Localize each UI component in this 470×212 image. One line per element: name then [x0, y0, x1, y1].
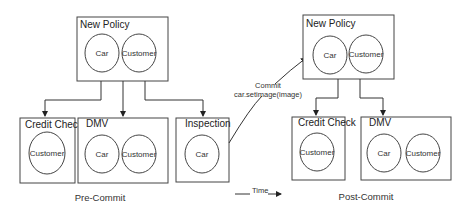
pre-new-policy-title: New Policy	[80, 19, 129, 30]
pre-dmv-box: DMV Car Customer	[78, 118, 168, 183]
post-dmv-title: DMV	[369, 117, 392, 128]
commit-label: Commit	[255, 81, 282, 90]
pre-inspection-car-label: Car	[196, 150, 209, 159]
post-dmv-car-label: Car	[378, 149, 391, 158]
post-credit-check-box: Credit Check Customer	[292, 117, 357, 180]
pre-root-car-label: Car	[96, 49, 109, 58]
post-root-car-label: Car	[324, 51, 337, 60]
post-dmv-customer-label: Customer	[406, 149, 441, 158]
pre-dmv-customer-label: Customer	[122, 150, 157, 159]
pre-commit-connectors	[45, 81, 203, 116]
pre-commit-new-policy-box: New Policy Car Customer	[77, 17, 168, 81]
pre-inspection-title: Inspection	[185, 118, 231, 129]
post-commit-connectors	[316, 79, 383, 115]
post-dmv-box: DMV Car Customer	[361, 117, 451, 180]
time-label: Time	[252, 186, 268, 195]
pre-commit-label: Pre-Commit	[75, 192, 126, 203]
commit-call-label: car.setimage(image)	[234, 90, 302, 99]
pre-credit-customer-label: Customer	[30, 149, 65, 158]
pre-credit-check-title: Credit Check	[25, 119, 84, 130]
diagram-canvas: New Policy Car Customer Credit Check Cus…	[0, 0, 470, 212]
post-commit-new-policy-box: New Policy Car Customer	[303, 15, 394, 79]
post-new-policy-title: New Policy	[306, 18, 355, 29]
pre-dmv-title: DMV	[86, 118, 109, 129]
pre-root-customer-label: Customer	[122, 49, 157, 58]
post-credit-check-title: Credit Check	[298, 117, 357, 128]
pre-dmv-car-label: Car	[96, 150, 109, 159]
post-root-customer-label: Customer	[349, 50, 384, 59]
commit-arrow-lower	[229, 96, 262, 143]
pre-credit-check-box: Credit Check Customer	[20, 118, 84, 183]
pre-inspection-box: Inspection Car	[176, 118, 231, 182]
post-credit-customer-label: Customer	[300, 148, 335, 157]
post-commit-label: Post-Commit	[339, 191, 394, 202]
